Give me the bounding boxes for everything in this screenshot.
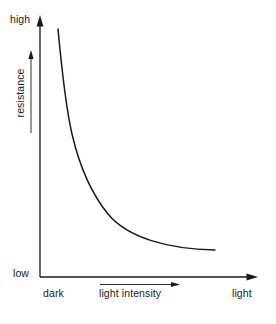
resistance-curve (58, 29, 215, 250)
x-axis-arrowhead-icon (247, 274, 259, 281)
graph-canvas (0, 0, 276, 324)
light-dependent-resistor-graph: high low resistance dark light intensity… (0, 0, 276, 324)
right-arrow-icon (171, 282, 180, 287)
y-axis-top-tick-label: high (10, 13, 30, 25)
y-axis-arrowhead-icon (37, 15, 44, 27)
y-axis-bottom-tick-label: low (13, 267, 29, 279)
y-axis-label: resistance (14, 58, 26, 128)
x-axis-label: light intensity (99, 287, 161, 299)
x-axis-left-tick-label: dark (43, 287, 64, 299)
up-arrow-icon (28, 50, 33, 59)
x-axis-right-tick-label: light (232, 287, 252, 299)
